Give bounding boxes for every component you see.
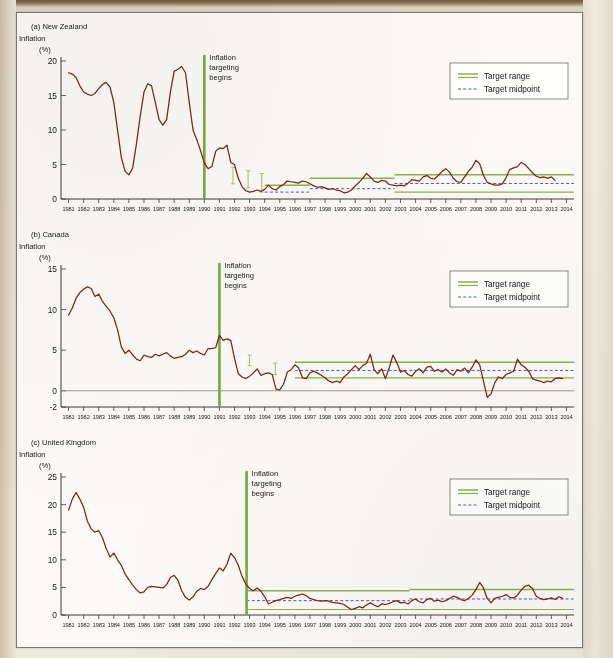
x-tick-label: 1988 [168, 206, 180, 212]
x-tick-label: 2005 [425, 206, 437, 212]
x-tick-label: 1998 [319, 414, 331, 420]
x-tick-label: 1989 [183, 414, 195, 420]
x-tick-label: 1982 [78, 622, 90, 628]
x-tick-label: 1996 [289, 414, 301, 420]
x-tick-label: 1992 [228, 622, 240, 628]
x-tick-label: 2010 [500, 414, 512, 420]
page-right-edge [583, 0, 613, 658]
y-tick-label: 10 [48, 305, 58, 315]
event-annotation-line: Inflation [224, 261, 251, 270]
x-tick-label: 1998 [319, 622, 331, 628]
panel-title: (b) Canada [31, 230, 70, 239]
y-axis-unit: (%) [39, 253, 51, 262]
legend-midpoint-label: Target midpoint [484, 293, 541, 302]
x-tick-label: 1983 [93, 206, 105, 212]
x-tick-label: 2001 [364, 622, 376, 628]
panel-title: (c) United Kingdom [31, 438, 96, 447]
x-tick-label: 1998 [319, 206, 331, 212]
x-tick-label: 2010 [500, 206, 512, 212]
x-tick-label: 1992 [228, 414, 240, 420]
x-tick-label: 1996 [289, 206, 301, 212]
figure-paper: (a) New ZealandInflation(%)0510152019811… [16, 12, 583, 648]
x-tick-label: 1985 [123, 622, 135, 628]
x-tick-label: 1991 [213, 414, 225, 420]
chart-svg-b: (b) CanadaInflation(%)-20510151981198219… [17, 225, 582, 437]
x-tick-label: 2014 [560, 206, 572, 212]
chart-svg-c: (c) United KingdomInflation(%)0510152025… [17, 433, 582, 645]
y-tick-label: 15 [48, 527, 58, 537]
x-tick-label: 2014 [560, 622, 572, 628]
chart-legend: Target rangeTarget midpoint [450, 271, 568, 307]
y-tick-label: 5 [52, 582, 57, 592]
scanned-page-background: (a) New ZealandInflation(%)0510152019811… [0, 0, 613, 658]
x-tick-label: 1983 [93, 414, 105, 420]
x-tick-label: 1984 [108, 414, 120, 420]
x-tick-label: 2012 [530, 414, 542, 420]
x-tick-label: 1986 [138, 206, 150, 212]
x-tick-label: 2008 [470, 206, 482, 212]
x-tick-label: 1994 [259, 622, 271, 628]
chart-legend: Target rangeTarget midpoint [450, 63, 568, 99]
x-tick-label: 1986 [138, 414, 150, 420]
x-tick-label: 1988 [168, 622, 180, 628]
x-tick-label: 1985 [123, 206, 135, 212]
x-tick-label: 2012 [530, 206, 542, 212]
x-tick-label: 2008 [470, 622, 482, 628]
x-tick-label: 2014 [560, 414, 572, 420]
event-annotation-line: begins [209, 73, 232, 82]
legend-range-label: Target range [484, 280, 530, 289]
x-tick-label: 1991 [213, 206, 225, 212]
event-annotation-line: Inflation [209, 53, 236, 62]
x-tick-label: 2013 [545, 206, 557, 212]
panel-title: (a) New Zealand [31, 22, 87, 31]
x-tick-label: 2001 [364, 414, 376, 420]
event-annotation-line: begins [252, 489, 275, 498]
y-axis-title: Inflation [19, 450, 46, 459]
y-tick-label: 25 [48, 472, 58, 482]
x-tick-label: 1982 [78, 414, 90, 420]
y-tick-label: 0 [52, 610, 57, 620]
x-tick-label: 1982 [78, 206, 90, 212]
chart-svg-a: (a) New ZealandInflation(%)0510152019811… [17, 17, 582, 229]
x-tick-label: 1987 [153, 206, 165, 212]
x-tick-label: 1991 [213, 622, 225, 628]
x-tick-label: 2011 [515, 414, 527, 420]
legend-midpoint-label: Target midpoint [484, 85, 541, 94]
x-tick-label: 2004 [410, 622, 422, 628]
chart-panel-b: (b) CanadaInflation(%)-20510151981198219… [17, 225, 582, 437]
x-tick-label: 1989 [183, 622, 195, 628]
x-tick-label: 1990 [198, 622, 210, 628]
x-tick-label: 1981 [63, 414, 75, 420]
x-tick-label: 1999 [334, 622, 346, 628]
x-tick-label: 2003 [394, 206, 406, 212]
y-tick-label: 0 [52, 194, 57, 204]
x-tick-label: 1990 [198, 206, 210, 212]
x-tick-label: 2003 [394, 414, 406, 420]
x-tick-label: 1994 [259, 414, 271, 420]
x-tick-label: 1990 [198, 414, 210, 420]
y-tick-label: 10 [48, 125, 58, 135]
x-tick-label: 2009 [485, 622, 497, 628]
x-tick-label: 1995 [274, 414, 286, 420]
y-tick-label: 20 [48, 56, 58, 66]
x-tick-label: 2013 [545, 622, 557, 628]
event-annotation-line: targeting [209, 63, 239, 72]
x-tick-label: 1983 [93, 622, 105, 628]
y-tick-label: 20 [48, 500, 58, 510]
x-tick-label: 1997 [304, 414, 316, 420]
y-tick-label: 5 [52, 345, 57, 355]
x-tick-label: 2005 [425, 414, 437, 420]
page-left-edge [0, 0, 16, 658]
x-tick-label: 1989 [183, 206, 195, 212]
chart-panel-c: (c) United KingdomInflation(%)0510152025… [17, 433, 582, 645]
x-tick-label: 2001 [364, 206, 376, 212]
x-tick-label: 1987 [153, 414, 165, 420]
x-tick-label: 1986 [138, 622, 150, 628]
x-tick-label: 2007 [455, 622, 467, 628]
x-tick-label: 1992 [228, 206, 240, 212]
x-tick-label: 1999 [334, 206, 346, 212]
x-tick-label: 2007 [455, 414, 467, 420]
event-annotation-line: targeting [252, 479, 282, 488]
x-tick-label: 2000 [349, 622, 361, 628]
x-tick-label: 2003 [394, 622, 406, 628]
